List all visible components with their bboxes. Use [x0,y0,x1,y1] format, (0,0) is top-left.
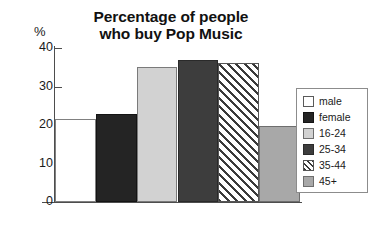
bar-25-34 [178,60,219,202]
legend-item: 45+ [303,173,367,189]
y-axis-tick-label: 20 [39,117,53,131]
legend-item: female [303,109,367,125]
y-axis-tick-label: 30 [39,79,53,93]
bar-male [55,119,96,202]
legend-item: 16-24 [303,125,367,141]
plot-area [55,44,300,202]
y-axis-tick-label: 0 [46,194,53,208]
y-axis-tick-label: 40 [39,40,53,54]
y-axis-tick-mark [55,202,62,203]
x-axis-line [42,202,302,203]
legend-item: 25-34 [303,141,367,157]
chart-title: Percentage of people who buy Pop Music [60,8,282,42]
y-axis-tick: 0 [20,202,62,203]
legend-item-label: 16-24 [319,127,346,139]
bar-16-24 [137,67,178,202]
bar-chart: Percentage of people who buy Pop Music %… [0,0,376,240]
chart-title-line-1: Percentage of people [60,8,282,25]
legend-item-label: male [319,95,342,107]
chart-title-line-2: who buy Pop Music [60,25,282,42]
legend-swatch-icon [303,96,314,107]
legend-swatch-icon [303,128,314,139]
legend-item-label: 45+ [319,175,337,187]
legend-item: 35-44 [303,157,367,173]
bar-45 [259,126,300,202]
legend-swatch-icon [303,160,314,171]
bar-35-44 [218,63,259,202]
chart-legend: malefemale16-2425-3435-4445+ [296,88,368,193]
legend-swatch-icon [303,144,314,155]
legend-swatch-icon [303,176,314,187]
legend-item-label: female [319,111,351,123]
bar-female [96,114,137,202]
legend-item-label: 25-34 [319,143,346,155]
legend-swatch-icon [303,112,314,123]
legend-item: male [303,93,367,109]
y-axis-tick-label: 10 [39,156,53,170]
y-axis-unit-label: % [34,24,46,39]
legend-item-label: 35-44 [319,159,346,171]
